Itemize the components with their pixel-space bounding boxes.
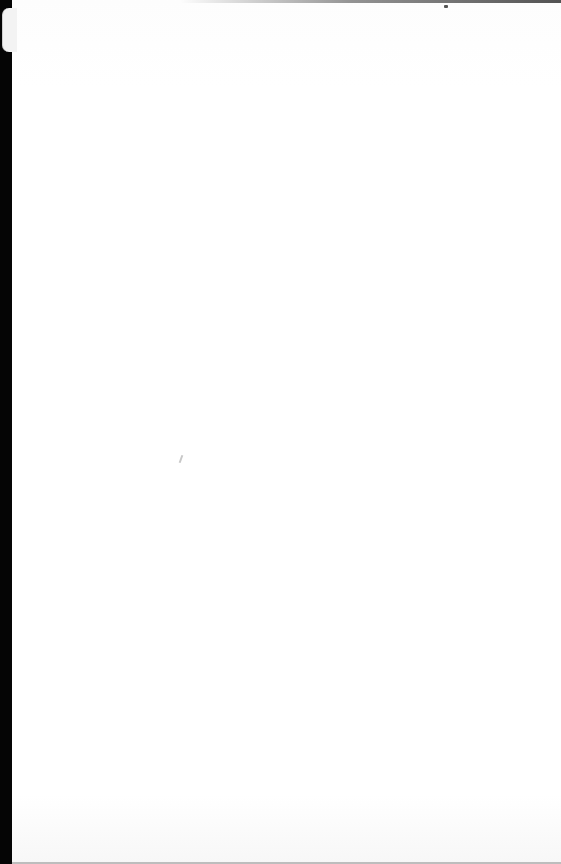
binding-strip [0,0,12,864]
blank-page [12,0,561,864]
top-edge-shadow [180,0,561,3]
page-tab-edge [2,8,17,52]
scan-speck [444,5,448,8]
